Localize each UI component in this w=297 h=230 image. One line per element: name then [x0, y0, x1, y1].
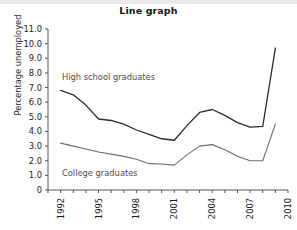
x-tick-label: 2001 — [169, 198, 179, 219]
y-tick-label: 9.0 — [29, 53, 42, 63]
series-annotation-high-school: High school graduates — [62, 72, 155, 82]
y-tick-label: 2.0 — [29, 156, 42, 166]
y-tick-label: 8.0 — [29, 68, 42, 78]
y-tick-label: 7.0 — [29, 83, 42, 93]
series-line-college — [61, 124, 276, 165]
y-tick-label: 6.0 — [29, 97, 42, 107]
x-tick-label: 2007 — [245, 198, 255, 219]
y-tick-label: 1.0 — [29, 170, 42, 180]
series-line-high-school — [61, 48, 276, 140]
x-tick-label: 1995 — [94, 198, 104, 219]
y-tick-label: 0 — [37, 185, 42, 195]
series-annotation-college: College graduates — [62, 168, 138, 178]
line-chart-plot: 01.02.03.04.05.06.07.08.09.010.011.0 199… — [0, 0, 297, 230]
y-tick-label: 4.0 — [29, 126, 42, 136]
x-tick-label: 2010 — [283, 198, 293, 219]
y-tick-label: 10.0 — [24, 39, 42, 49]
x-tick-label: 2004 — [207, 198, 217, 219]
x-axis-ticks: 1992199519982001200420072010 — [48, 190, 293, 219]
y-tick-label: 11.0 — [24, 24, 42, 34]
x-tick-label: 1998 — [131, 198, 141, 219]
figure-canvas: Line graph Percentage unemployed 01.02.0… — [0, 0, 297, 230]
x-tick-label: 1992 — [56, 198, 66, 219]
y-tick-label: 5.0 — [29, 112, 42, 122]
y-axis-ticks: 01.02.03.04.05.06.07.08.09.010.011.0 — [24, 24, 48, 195]
y-tick-label: 3.0 — [29, 141, 42, 151]
